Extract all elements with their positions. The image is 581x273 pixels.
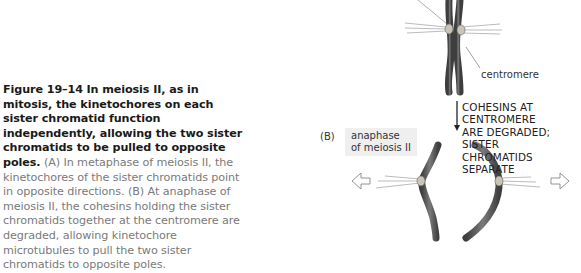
down-arrow-icon (454, 101, 460, 131)
step-label: COHESINS AT CENTROMERE ARE DEGRADED; SIS… (462, 101, 581, 175)
left-pole-arrow-icon (352, 173, 370, 189)
centromere-label: centromere (481, 69, 539, 81)
phase-label-line: anaphase (351, 130, 411, 142)
panel-b-letter: (B) (320, 131, 335, 142)
panel-b-phase-label: anaphase of meiosis II (345, 128, 417, 156)
step-label-line: COHESINS AT CENTROMERE (462, 101, 581, 126)
step-label-line: CHROMATIDS SEPARATE (462, 151, 581, 176)
phase-label-line: of meiosis II (351, 142, 411, 154)
centromere-pointer (466, 47, 480, 68)
step-label-line: ARE DEGRADED; SISTER (462, 126, 581, 151)
anaphase-left-chromatid (376, 145, 438, 238)
